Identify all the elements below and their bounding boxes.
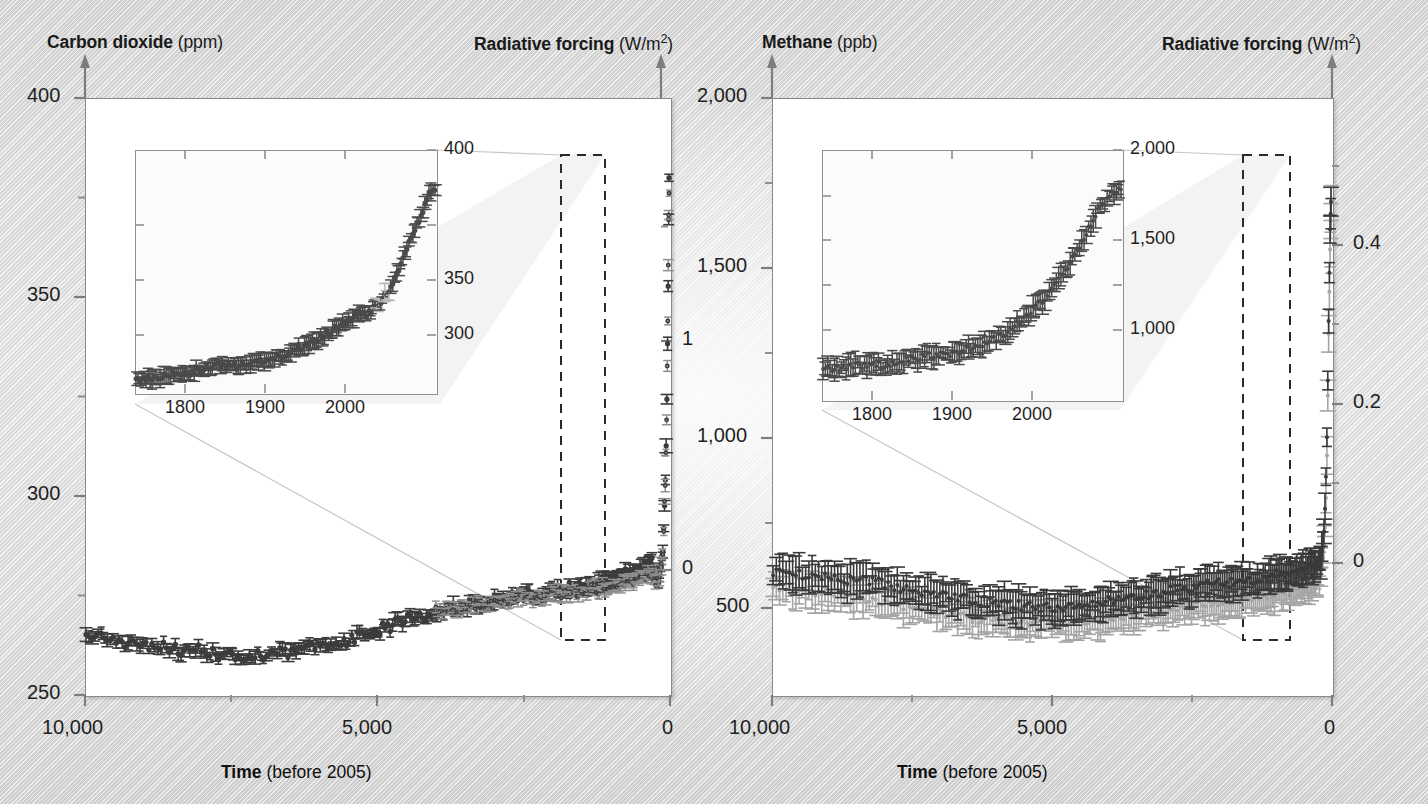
ch4-inset-decorations: [0, 0, 1428, 804]
ch4-inset-ytick-2000: 2,000: [1130, 138, 1175, 159]
ch4-inset-xtick-2000: 2000: [1012, 404, 1052, 425]
ch4-inset-ytick-1000: 1,000: [1130, 318, 1175, 339]
ch4-inset-ytick-1500: 1,500: [1130, 228, 1175, 249]
ch4-inset-xtick-1900: 1900: [932, 404, 972, 425]
ch4-inset-xtick-1800: 1800: [852, 404, 892, 425]
